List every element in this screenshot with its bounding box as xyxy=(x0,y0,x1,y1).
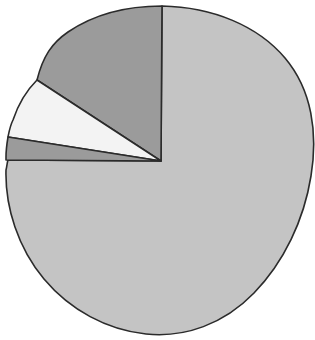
pie-chart-container xyxy=(0,0,315,340)
pie-chart-svg xyxy=(0,0,315,340)
